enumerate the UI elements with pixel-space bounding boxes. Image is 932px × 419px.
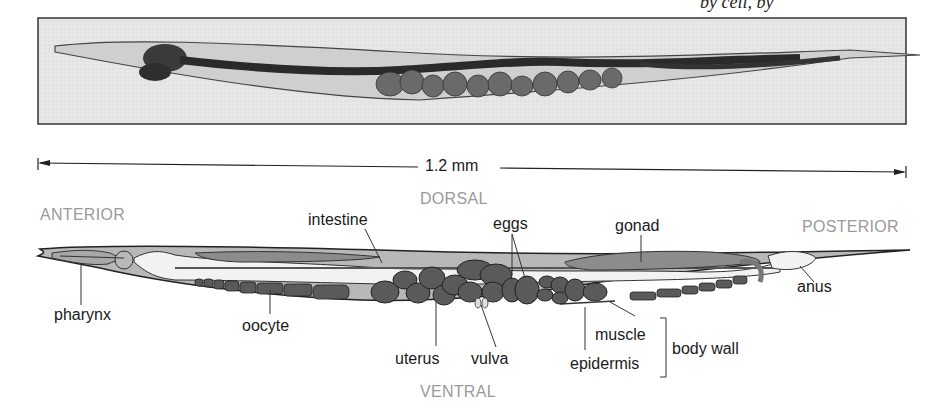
- anterior-label: ANTERIOR: [40, 207, 125, 223]
- pharynx-label: pharynx: [54, 307, 111, 323]
- dorsal-label: DORSAL: [420, 191, 488, 207]
- posterior-label: POSTERIOR: [802, 219, 899, 235]
- ventral-label: VENTRAL: [420, 384, 496, 400]
- micrograph-panel: [38, 18, 920, 124]
- uterus-label: uterus: [395, 351, 439, 367]
- anus-label: anus: [797, 279, 832, 295]
- arrow-left-icon: [38, 160, 50, 166]
- diagram-canvas: [0, 0, 932, 419]
- intestine-label: intestine: [308, 212, 368, 228]
- vulva-label: vulva: [471, 351, 508, 367]
- gonad-label: gonad: [615, 218, 660, 234]
- arrow-right-icon: [894, 169, 906, 175]
- body-wall-label: body wall: [672, 341, 739, 357]
- muscle-label: muscle: [595, 327, 646, 343]
- oocyte-label: oocyte: [242, 318, 289, 334]
- epidermis-label: epidermis: [570, 356, 639, 372]
- worm-schematic: [38, 246, 910, 308]
- scale-bar-label: 1.2 mm: [425, 158, 478, 174]
- eggs-label: eggs: [493, 216, 528, 232]
